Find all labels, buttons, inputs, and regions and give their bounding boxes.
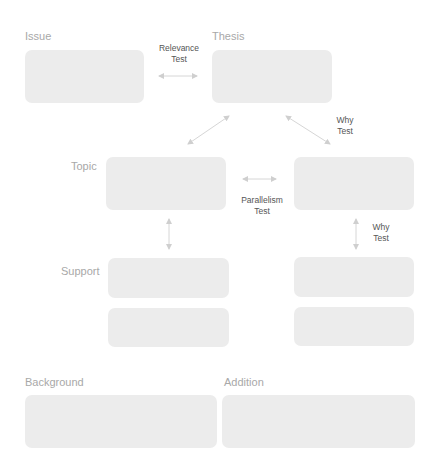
connector-arrows [0, 0, 440, 467]
thesis-topic-left-arrow-icon [188, 116, 229, 144]
thesis-topic-right-arrow-icon [286, 116, 330, 144]
